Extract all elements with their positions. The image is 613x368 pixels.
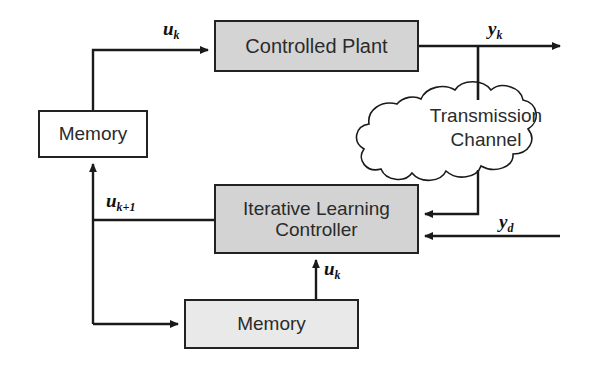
signal-label-uk-mid: uk [324,258,341,283]
signal-label-uk-plus-1: uk+1 [106,190,135,215]
ilc-label-line-2: Controller [275,219,357,240]
signal-ukp1-base: u [106,190,117,211]
signal-label-yd: yd [499,211,513,236]
connector-uk-to-plant [93,50,208,110]
signal-yk-sub: k [496,28,502,42]
signal-yd-sub: d [507,221,513,235]
diagram-canvas: Controlled Plant Iterative Learning Cont… [0,0,613,368]
signal-uk-top-base: u [163,18,174,39]
memory-bottom-block[interactable]: Memory [184,299,359,349]
signal-label-uk-top: uk [163,18,180,43]
channel-label-line-1: Transmission [430,105,542,126]
signal-ukp1-sub: k+1 [117,200,136,214]
signal-uk-top-sub: k [174,28,180,42]
channel-label-line-2: Channel [451,129,522,150]
memory-top-label: Memory [59,123,128,144]
ilc-label-line-1: Iterative Learning [243,198,390,219]
iterative-learning-controller-label: Iterative Learning Controller [243,198,390,241]
iterative-learning-controller-block[interactable]: Iterative Learning Controller [214,184,419,254]
signal-uk-mid-sub: k [335,268,341,282]
signal-uk-mid-base: u [324,258,335,279]
transmission-channel-label: Transmission Channel [398,104,574,152]
memory-top-block[interactable]: Memory [38,110,148,158]
controlled-plant-block[interactable]: Controlled Plant [214,20,419,72]
signal-label-yk: yk [488,18,502,43]
controlled-plant-label: Controlled Plant [245,35,387,57]
memory-bottom-label: Memory [237,313,306,334]
